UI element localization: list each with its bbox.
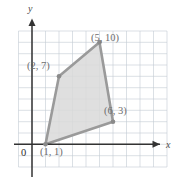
coordinate-plane-figure: (5, 10) (2, 7) (6, 3) (1, 1) x y 0 bbox=[0, 0, 189, 185]
y-axis-label: y bbox=[28, 4, 32, 14]
x-axis-label: x bbox=[166, 140, 170, 150]
point-label-2-7: (2, 7) bbox=[27, 61, 50, 72]
point-label-6-3: (6, 3) bbox=[104, 106, 127, 117]
x-axis bbox=[14, 141, 160, 148]
plot-canvas bbox=[0, 0, 189, 185]
point-label-1-1: (1, 1) bbox=[40, 147, 63, 158]
vertex-6-3 bbox=[111, 119, 116, 124]
point-label-5-10: (5, 10) bbox=[91, 33, 119, 44]
vertex-2-7 bbox=[57, 74, 62, 79]
origin-label: 0 bbox=[21, 148, 26, 159]
quadrilateral-shape bbox=[46, 42, 114, 144]
